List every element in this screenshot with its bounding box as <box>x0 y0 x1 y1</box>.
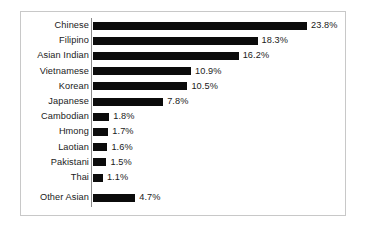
bar-container: 7.8% <box>93 94 343 109</box>
bar-container: 18.3% <box>93 33 343 48</box>
bar <box>93 174 103 182</box>
bar-value-label: 7.8% <box>167 94 188 109</box>
bar-value-label: 16.2% <box>243 48 270 63</box>
chart-plot-area: Chinese23.8%Filipino18.3%Asian Indian16.… <box>21 12 345 215</box>
bar <box>93 82 187 90</box>
chart-bar-row: Pakistani1.5% <box>21 155 345 170</box>
bar <box>93 143 107 151</box>
chart-bar-row: Vietnamese10.9% <box>21 64 345 79</box>
bar-container: 1.1% <box>93 170 343 185</box>
category-label: Vietnamese <box>21 64 89 79</box>
category-label: Cambodian <box>21 109 89 124</box>
bar-container: 1.6% <box>93 140 343 155</box>
category-label: Laotian <box>21 140 89 155</box>
category-label: Other Asian <box>21 190 89 205</box>
bar-container: 16.2% <box>93 48 343 63</box>
bar <box>93 158 106 166</box>
chart-bar-row: Korean10.5% <box>21 79 345 94</box>
bar-value-label: 10.5% <box>191 79 218 94</box>
category-label: Japanese <box>21 94 89 109</box>
chart-bar-row: Thai1.1% <box>21 170 345 185</box>
bar <box>93 22 307 30</box>
chart-bar-row: Chinese23.8% <box>21 18 345 33</box>
bar-container: 1.5% <box>93 155 343 170</box>
bar <box>93 52 239 60</box>
category-label: Korean <box>21 79 89 94</box>
category-label: Thai <box>21 170 89 185</box>
bar <box>93 113 109 121</box>
category-label: Filipino <box>21 33 89 48</box>
bar-value-label: 1.8% <box>113 109 134 124</box>
bar <box>93 128 108 136</box>
category-label: Asian Indian <box>21 48 89 63</box>
bar-container: 1.7% <box>93 124 343 139</box>
chart-bar-row: Japanese7.8% <box>21 94 345 109</box>
category-label: Pakistani <box>21 155 89 170</box>
bar <box>93 37 258 45</box>
bar-value-label: 23.8% <box>311 18 338 33</box>
bar-value-label: 10.9% <box>195 64 222 79</box>
bar-container: 1.8% <box>93 109 343 124</box>
bar-value-label: 1.1% <box>107 170 128 185</box>
category-label: Chinese <box>21 18 89 33</box>
chart-bar-row: Other Asian4.7% <box>21 190 345 205</box>
bar-value-label: 1.6% <box>111 140 132 155</box>
bar <box>93 194 135 202</box>
bar-container: 23.8% <box>93 18 343 33</box>
chart-bar-row: Hmong1.7% <box>21 124 345 139</box>
bar-value-label: 1.7% <box>112 124 133 139</box>
chart-bar-row: Filipino18.3% <box>21 33 345 48</box>
bar-container: 10.9% <box>93 64 343 79</box>
chart-bar-row: Cambodian1.8% <box>21 109 345 124</box>
chart-frame: Chinese23.8%Filipino18.3%Asian Indian16.… <box>20 11 346 216</box>
bar-container: 4.7% <box>93 190 343 205</box>
chart-bar-row: Asian Indian16.2% <box>21 48 345 63</box>
bar-value-label: 18.3% <box>262 33 289 48</box>
chart-bar-row: Laotian1.6% <box>21 140 345 155</box>
category-label: Hmong <box>21 124 89 139</box>
bar <box>93 98 163 106</box>
bar-value-label: 1.5% <box>110 155 131 170</box>
bar-value-label: 4.7% <box>139 190 160 205</box>
bar-container: 10.5% <box>93 79 343 94</box>
bar <box>93 67 191 75</box>
